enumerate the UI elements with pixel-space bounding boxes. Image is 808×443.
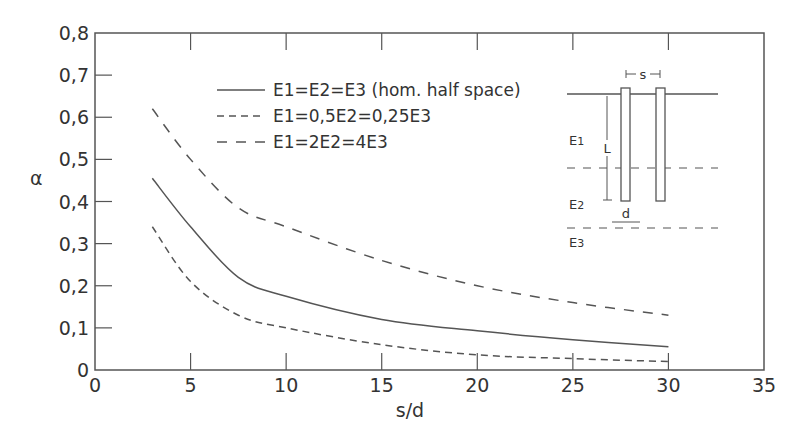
legend-label-soft-top: E1=0,5E2=0,25E3 bbox=[273, 106, 431, 126]
length-label: L bbox=[603, 141, 611, 156]
layer-label-e3: E3 bbox=[569, 235, 584, 250]
y-tick-label: 0,8 bbox=[59, 22, 89, 44]
y-tick-label: 0,6 bbox=[59, 106, 89, 128]
y-tick-label: 0,7 bbox=[59, 64, 89, 86]
x-tick-label: 20 bbox=[465, 374, 489, 396]
x-tick-label: 35 bbox=[752, 374, 776, 396]
y-tick-label: 0 bbox=[77, 359, 89, 381]
x-tick-label: 0 bbox=[89, 374, 101, 396]
y-tick-label: 0,4 bbox=[59, 191, 89, 213]
x-tick-label: 25 bbox=[561, 374, 585, 396]
y-axis-label: α bbox=[30, 167, 43, 189]
legend-label-stiff-top: E1=2E2=4E3 bbox=[273, 132, 388, 152]
y-tick-label: 0,2 bbox=[59, 275, 89, 297]
series-line-long-dash bbox=[152, 109, 668, 315]
diameter-label: d bbox=[622, 206, 630, 221]
chart-canvas: 00,10,20,30,40,50,60,70,8 05101520253035… bbox=[0, 0, 808, 443]
legend-label-homogeneous: E1=E2=E3 (hom. half space) bbox=[273, 80, 521, 100]
x-tick-label: 15 bbox=[370, 374, 394, 396]
x-tick-label: 5 bbox=[185, 374, 197, 396]
x-tick-label: 10 bbox=[274, 374, 298, 396]
x-tick-label: 30 bbox=[656, 374, 680, 396]
spacing-label: s bbox=[640, 67, 647, 82]
plot-area bbox=[152, 109, 668, 362]
y-axis: 00,10,20,30,40,50,60,70,8 bbox=[59, 22, 112, 381]
pile-left bbox=[621, 88, 630, 201]
layer-label-e2: E2 bbox=[569, 197, 584, 212]
pile-diagram-inset: s L d E1 E2 E3 bbox=[567, 66, 718, 250]
y-tick-label: 0,3 bbox=[59, 233, 89, 255]
series-line-solid bbox=[152, 178, 668, 346]
x-axis-label: s/d bbox=[396, 399, 424, 421]
pile-right bbox=[656, 88, 665, 201]
y-tick-label: 0,1 bbox=[59, 317, 89, 339]
legend: E1=E2=E3 (hom. half space) E1=0,5E2=0,25… bbox=[217, 80, 521, 152]
layer-label-e1: E1 bbox=[569, 133, 584, 148]
y-tick-label: 0,5 bbox=[59, 148, 89, 170]
